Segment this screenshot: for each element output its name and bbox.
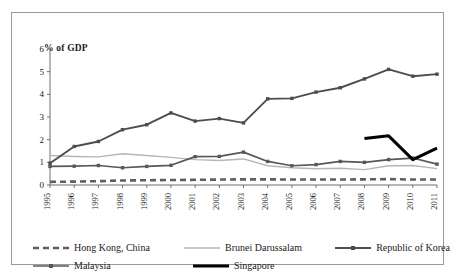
- legend-label: Malaysia: [74, 261, 111, 271]
- series-marker: [363, 77, 366, 80]
- legend-swatch: [32, 242, 70, 254]
- series-marker: [314, 90, 317, 93]
- line-chart-plot: 0123456199519961997199819992000200120022…: [12, 13, 445, 266]
- legend-row: MalaysiaSingapore: [32, 257, 450, 275]
- series-marker: [72, 145, 75, 148]
- y-axis-tick-label: 3: [40, 112, 45, 122]
- series-marker: [169, 111, 172, 114]
- x-axis-tick-label: 2001: [187, 193, 197, 210]
- series-line: [50, 152, 437, 168]
- legend-item-brunei-darussalam[interactable]: Brunei Darussalam: [183, 242, 334, 254]
- x-axis-tick-label: 1995: [42, 193, 52, 210]
- series-line: [364, 136, 437, 160]
- x-axis-tick-label: 2005: [284, 193, 294, 210]
- series-marker: [169, 164, 172, 167]
- x-axis-tick-label: 2008: [356, 193, 366, 210]
- y-axis-tick-label: 1: [40, 157, 45, 167]
- series-marker: [218, 117, 221, 120]
- series-marker: [339, 86, 342, 89]
- chart-frame: % of GDP 0123456199519961997199819992000…: [11, 12, 444, 265]
- series-marker: [290, 164, 293, 167]
- series-marker: [145, 123, 148, 126]
- x-axis-tick-label: 2011: [429, 193, 439, 210]
- legend-label: Republic of Korea: [376, 243, 450, 253]
- y-axis-tick-label: 2: [40, 135, 45, 145]
- series-marker: [435, 72, 438, 75]
- series-marker: [97, 164, 100, 167]
- series-marker: [266, 160, 269, 163]
- x-axis-tick-label: 2009: [381, 193, 391, 210]
- x-axis-tick-label: 2002: [211, 193, 221, 210]
- x-axis-tick-label: 2010: [405, 193, 415, 210]
- legend-item-singapore[interactable]: Singapore: [192, 260, 352, 272]
- legend-swatch: [32, 260, 70, 272]
- series-marker: [242, 121, 245, 124]
- x-axis-tick-label: 2003: [236, 193, 246, 210]
- y-axis-tick-label: 0: [40, 180, 45, 190]
- series-line: [50, 179, 437, 182]
- series-marker: [411, 75, 414, 78]
- legend-item-republic-of-korea[interactable]: Republic of Korea: [334, 242, 450, 254]
- legend-swatch: [334, 242, 372, 254]
- legend-label: Singapore: [234, 261, 275, 271]
- chart-legend: Hong Kong, ChinaBrunei DarussalamRepubli…: [32, 239, 450, 275]
- series-marker: [363, 161, 366, 164]
- x-axis-tick-label: 2007: [332, 193, 342, 210]
- x-axis-tick-label: 1998: [115, 193, 125, 210]
- series-marker: [97, 140, 100, 143]
- series-marker: [339, 160, 342, 163]
- x-axis-tick-label: 1996: [66, 193, 76, 210]
- series-marker: [72, 164, 75, 167]
- series-marker: [435, 162, 438, 165]
- series-marker: [242, 150, 245, 153]
- series-marker: [314, 163, 317, 166]
- x-axis-tick-label: 1997: [90, 193, 100, 210]
- series-marker: [387, 158, 390, 161]
- series-marker: [48, 165, 51, 168]
- x-axis-tick-label: 1999: [139, 193, 149, 210]
- series-marker: [193, 119, 196, 122]
- series-marker: [121, 128, 124, 131]
- legend-label: Brunei Darussalam: [225, 243, 302, 253]
- series-line: [50, 69, 437, 163]
- x-axis-tick-label: 2004: [260, 192, 270, 210]
- y-axis-tick-label: 6: [40, 44, 45, 54]
- series-marker: [290, 97, 293, 100]
- legend-item-malaysia[interactable]: Malaysia: [32, 260, 192, 272]
- y-axis-tick-label: 5: [40, 67, 45, 77]
- series-marker: [266, 97, 269, 100]
- series-marker: [218, 155, 221, 158]
- series-marker: [387, 68, 390, 71]
- series-marker: [121, 166, 124, 169]
- series-marker: [145, 165, 148, 168]
- legend-swatch: [192, 260, 230, 272]
- y-axis-tick-label: 4: [40, 89, 45, 99]
- legend-label: Hong Kong, China: [74, 243, 150, 253]
- x-axis-tick-label: 2006: [308, 193, 318, 210]
- legend-swatch: [183, 242, 221, 254]
- series-marker: [48, 162, 51, 165]
- x-axis-tick-label: 2000: [163, 193, 173, 210]
- series-marker: [193, 155, 196, 158]
- legend-row: Hong Kong, ChinaBrunei DarussalamRepubli…: [32, 239, 450, 257]
- legend-item-hong-kong-china[interactable]: Hong Kong, China: [32, 242, 183, 254]
